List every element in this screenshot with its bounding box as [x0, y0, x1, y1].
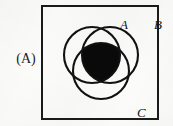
venn-diagram-svg	[41, 5, 159, 120]
set-label-c: C	[137, 106, 146, 119]
region-a-b-c-shaded	[41, 5, 159, 120]
set-label-b: B	[154, 18, 162, 31]
item-label: (A)	[9, 49, 43, 68]
figure-screenshot: (A)	[0, 0, 173, 126]
venn-diagram-box: A B C	[41, 5, 159, 120]
set-label-a: A	[120, 18, 128, 31]
